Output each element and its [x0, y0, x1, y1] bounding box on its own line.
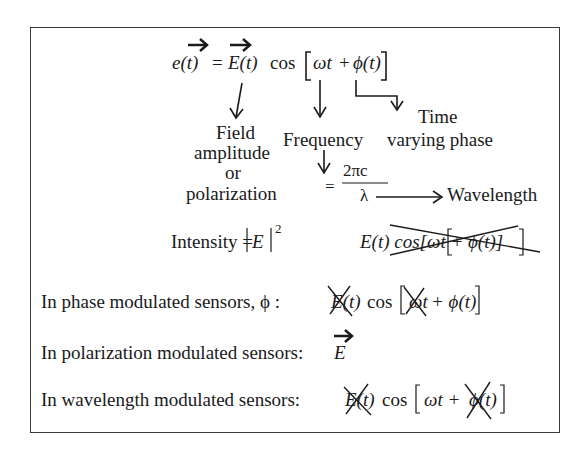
- row-wavelength-amplitude: E(t): [345, 390, 375, 409]
- row-phase-omega: ωt: [409, 292, 428, 311]
- eq-amplitude: E(t): [228, 53, 258, 72]
- eq-lhs: e(t): [172, 53, 198, 72]
- row-wavelength-omega: ωt +: [424, 390, 460, 409]
- eq-cos: cos: [270, 53, 295, 72]
- label-time: Time: [418, 107, 457, 126]
- label-polarization: polarization: [186, 184, 277, 203]
- crossed-expression: E(t) cos[ωt + ϕ(t)]: [360, 232, 503, 251]
- label-or: or: [225, 163, 241, 182]
- row-wavelength-label: In wavelength modulated sensors:: [41, 390, 300, 409]
- row-wavelength-cos: cos: [382, 390, 407, 409]
- label-varying-phase: varying phase: [387, 130, 493, 149]
- row-phase-rest: + ϕ(t): [431, 292, 476, 311]
- row-polarization-label: In polarization modulated sensors:: [41, 343, 303, 362]
- eq-equals: =: [212, 53, 223, 72]
- label-frequency: Frequency: [283, 130, 363, 149]
- intensity-value: E: [252, 232, 264, 251]
- row-phase-label: In phase modulated sensors, ϕ :: [41, 292, 280, 311]
- row-polarization-expr: E: [334, 343, 346, 362]
- eq-phi-t: ϕ(t): [353, 53, 381, 72]
- label-amplitude: amplitude: [194, 143, 270, 162]
- label-field: Field: [216, 123, 255, 142]
- intensity-label: Intensity =: [171, 232, 253, 251]
- intensity-exponent: 2: [275, 222, 282, 235]
- label-wavelength: Wavelength: [447, 185, 537, 204]
- figure-frame: [30, 27, 560, 433]
- eq-plus: +: [339, 53, 350, 72]
- row-phase-cos: cos: [367, 292, 392, 311]
- fraction-numerator: 2πc: [343, 162, 368, 179]
- row-wavelength-phi: ϕ(t): [469, 390, 497, 409]
- row-phase-amplitude: E(t): [331, 292, 361, 311]
- fraction-denominator: λ: [360, 187, 368, 204]
- label-equals-freq: =: [325, 178, 335, 195]
- eq-omega-t: ωt: [313, 53, 332, 72]
